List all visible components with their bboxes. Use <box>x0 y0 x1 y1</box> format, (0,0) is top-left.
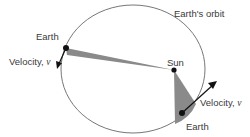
earth-point-right <box>179 110 185 116</box>
sun-label: Sun <box>167 58 184 68</box>
velocity-text: Velocity, <box>9 56 46 67</box>
velocity-label-left: Velocity, v⃗ <box>9 57 58 68</box>
orbit-label: Earth's orbit <box>174 9 224 19</box>
swept-area-right <box>174 70 196 124</box>
sun-point <box>171 67 176 72</box>
velocity-label-right: Velocity, v⃗ <box>200 98 249 109</box>
swept-area-left <box>66 48 174 70</box>
velocity-symbol: v⃗ <box>46 57 58 67</box>
earth-label-right: Earth <box>186 122 209 132</box>
orbit-diagram <box>0 0 250 137</box>
earth-point-left <box>63 45 69 51</box>
velocity-symbol: v⃗ <box>237 98 249 108</box>
velocity-text: Velocity, <box>200 97 237 108</box>
earth-label-left: Earth <box>36 32 59 42</box>
